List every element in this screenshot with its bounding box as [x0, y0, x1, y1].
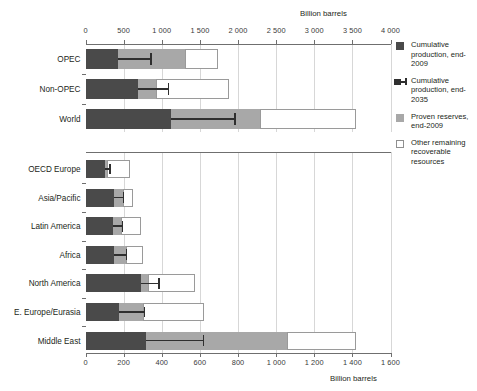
bar-segment [185, 49, 218, 69]
x-tick-label: 4 000 [381, 26, 400, 35]
error-bar-cap [168, 83, 170, 95]
legend-item-cum-prod-2009: Cumulative production, end-2009 [396, 40, 477, 69]
error-bar-line [171, 118, 235, 120]
legend-label: Cumulative production, end-2035 [411, 76, 477, 105]
bar-segment [86, 160, 105, 178]
row-separator-tick [82, 212, 86, 213]
chart-canvas: 05001 0001 5002 0002 5003 0003 5004 000O… [0, 0, 477, 391]
axis-tick [391, 40, 392, 44]
legend-swatch-errorbar-icon [394, 78, 407, 86]
bar-row [0, 303, 477, 321]
x-tick-label: 0 [83, 26, 87, 35]
bar-segment [86, 303, 119, 321]
error-bar-line [146, 340, 204, 342]
bar-row [0, 274, 477, 292]
axis-tick [238, 40, 239, 44]
error-bar-cap [234, 113, 236, 125]
error-bar-line [118, 58, 151, 60]
x-tick-label: 3 500 [343, 26, 362, 35]
error-bar-line [141, 283, 159, 285]
error-bar-line [138, 88, 169, 90]
axis-tick [276, 40, 277, 44]
x-axis-line [86, 44, 391, 45]
x-tick-label: 1 400 [343, 358, 362, 367]
x-tick-label: 1 200 [305, 358, 324, 367]
bar-segment [126, 246, 142, 264]
bar-segment [86, 109, 171, 129]
bar-row [0, 217, 477, 235]
x-tick-label: 3 000 [305, 26, 324, 35]
bar-segment [287, 332, 357, 350]
axis-tick [352, 353, 353, 357]
legend-item-other-remaining: Other remaining recoverable resources [396, 138, 477, 167]
legend-item-cum-prod-2035: Cumulative production, end-2035 [396, 76, 477, 105]
x-tick-label: 500 [117, 26, 130, 35]
error-bar-cap [122, 221, 124, 232]
x-tick-label: 600 [194, 358, 207, 367]
bar-segment [86, 217, 114, 235]
row-separator-tick [82, 298, 86, 299]
row-separator-tick [82, 326, 86, 327]
axis-tick [86, 40, 87, 44]
axis-tick [200, 353, 201, 357]
error-bar-cap [158, 278, 160, 289]
x-tick-label: 1 000 [152, 26, 171, 35]
axis-tick [162, 40, 163, 44]
bar-row [0, 246, 477, 264]
bar-row [0, 332, 477, 350]
error-bar-cap [144, 307, 146, 318]
error-bar-cap [123, 192, 125, 203]
axis-tick [238, 353, 239, 357]
error-bar-cap [126, 249, 128, 260]
x-tick-label: 1 000 [267, 358, 286, 367]
axis-tick [86, 353, 87, 357]
error-bar-line [114, 254, 126, 256]
axis-tick [352, 40, 353, 44]
bottom-axis-unit-label: Billion barrels [330, 374, 377, 383]
bar-segment [260, 109, 356, 129]
chart-legend: Cumulative production, end-2009Cumulativ… [396, 40, 477, 174]
legend-item-proven-reserves-2009: Proven reserves, end-2009 [396, 112, 477, 131]
top-axis-unit-label: Billion barrels [300, 9, 347, 18]
row-separator-tick [82, 241, 86, 242]
bar-segment [86, 246, 115, 264]
bar-segment [86, 79, 139, 99]
legend-swatch-other-remaining-icon [396, 140, 404, 148]
x-tick-label: 1 600 [381, 358, 400, 367]
error-bar-cap [109, 164, 111, 175]
error-bar-cap [203, 335, 205, 346]
legend-label: Proven reserves, end-2009 [411, 112, 477, 131]
error-bar-cap [150, 53, 152, 65]
row-separator-tick [82, 269, 86, 270]
legend-swatch-cap [405, 78, 407, 85]
x-tick-label: 400 [155, 358, 168, 367]
legend-swatch-cum-prod-2009-icon [396, 42, 404, 50]
legend-label: Cumulative production, end-2009 [411, 40, 477, 69]
x-tick-label: 0 [83, 358, 87, 367]
x-tick-label: 2 000 [229, 26, 248, 35]
x-tick-label: 1 500 [190, 26, 209, 35]
bar-segment [143, 303, 204, 321]
error-bar-line [119, 311, 145, 313]
axis-tick [276, 353, 277, 357]
axis-tick [391, 353, 392, 357]
x-tick-label: 800 [232, 358, 245, 367]
bar-row [0, 189, 477, 207]
x-tick-label: 200 [117, 358, 130, 367]
axis-tick [314, 353, 315, 357]
bar-segment [86, 274, 141, 292]
axis-tick [124, 40, 125, 44]
bottom-chart-top-rule [86, 152, 391, 153]
bar-segment [86, 332, 146, 350]
axis-tick [162, 353, 163, 357]
legend-swatch-proven-reserves-2009-icon [396, 114, 404, 122]
bar-segment [86, 49, 119, 69]
x-tick-label: 2 500 [267, 26, 286, 35]
row-separator-tick [82, 104, 86, 105]
bar-segment [121, 217, 141, 235]
axis-tick [124, 353, 125, 357]
row-separator-tick [82, 74, 86, 75]
bar-segment [86, 189, 115, 207]
axis-tick [314, 40, 315, 44]
axis-tick [200, 40, 201, 44]
